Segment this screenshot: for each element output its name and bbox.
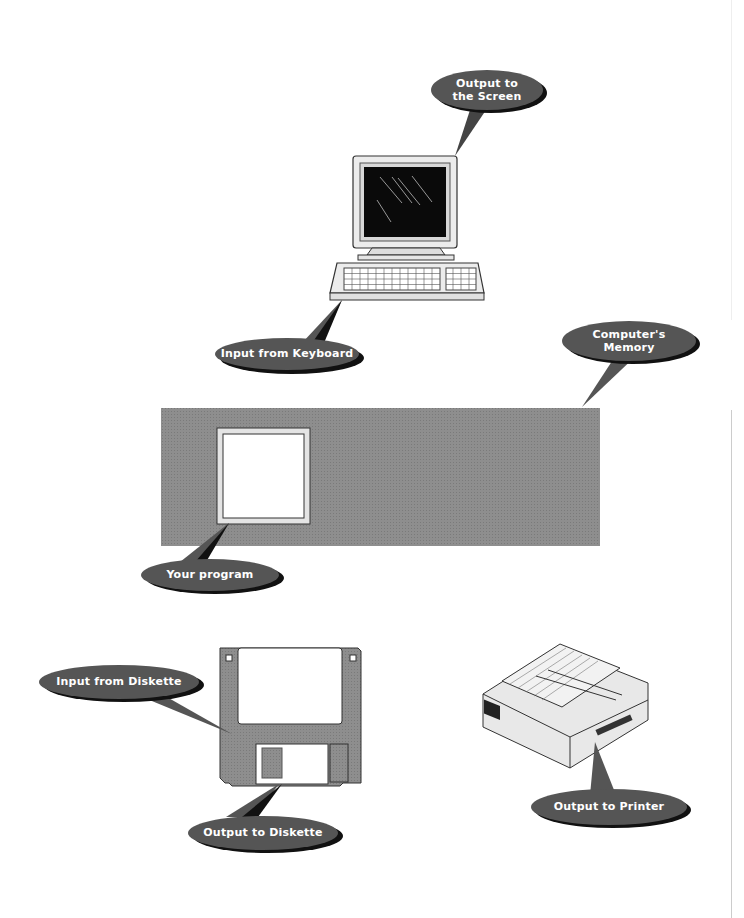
callout-memory-line2: Memory: [569, 341, 689, 354]
callout-diskette-out: [188, 784, 343, 853]
diagram-canvas: [0, 0, 744, 918]
diskette-icon: [220, 648, 361, 786]
callout-screen-line1: Output to: [437, 77, 537, 90]
callout-memory-line1: Computer's: [569, 328, 689, 341]
callout-screen-line2: the Screen: [437, 90, 537, 103]
callout-program-label: Your program: [150, 568, 270, 581]
keyboard-icon: [330, 263, 484, 300]
callout-diskette-in-label: Input from Diskette: [40, 675, 198, 688]
printer-icon: [483, 644, 648, 768]
program-box: [217, 428, 310, 524]
callout-keyboard: [215, 300, 364, 374]
callout-diskette-out-label: Output to Diskette: [188, 826, 338, 839]
callout-screen-label: Output to the Screen: [437, 77, 537, 103]
callout-keyboard-label: Input from Keyboard: [215, 347, 359, 360]
callout-printer-label: Output to Printer: [531, 800, 687, 813]
monitor-icon: [353, 156, 457, 260]
callout-memory-label: Computer's Memory: [569, 328, 689, 354]
